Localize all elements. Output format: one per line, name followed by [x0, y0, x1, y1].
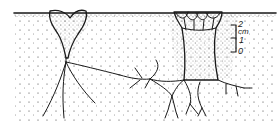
soil-cross-section-figure: 2 cm 1 0 — [0, 0, 279, 128]
surface-crust — [14, 13, 276, 17]
scale-label-1: 1 — [239, 36, 244, 45]
scale-label-0: 0 — [238, 47, 243, 56]
right-halo — [168, 14, 238, 81]
